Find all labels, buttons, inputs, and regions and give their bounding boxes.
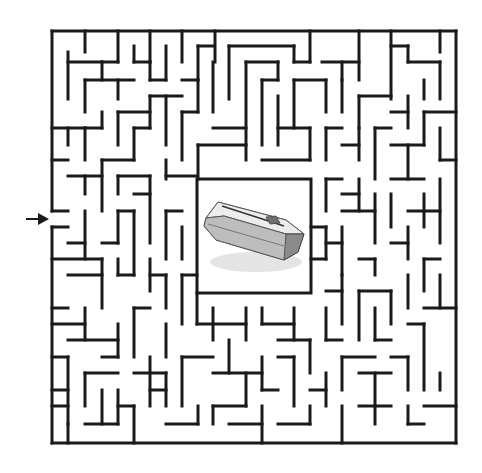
entrance-arrow-icon: [26, 213, 49, 225]
maze-board: [0, 0, 482, 473]
coffin-icon: [200, 190, 308, 290]
